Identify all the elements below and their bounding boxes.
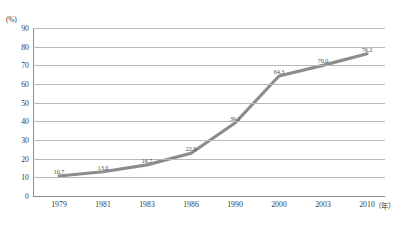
gridline (33, 47, 385, 48)
x-axis-tick-label: 1986 (183, 200, 199, 209)
line-chart: (%) 0102030405060708090 10.713.016.722.9… (0, 0, 404, 241)
y-axis-tick-label: 50 (3, 98, 29, 107)
x-axis-tick-label: 2003 (315, 200, 331, 209)
y-axis-tick-labels: 0102030405060708090 (0, 28, 29, 196)
y-axis-tick-label: 90 (3, 24, 29, 33)
gridline (33, 28, 385, 29)
data-point-label: 16.7 (142, 157, 152, 164)
y-axis-tick-label: 80 (3, 42, 29, 51)
y-axis-tick-label: 60 (3, 80, 29, 89)
y-axis-tick-label: 40 (3, 117, 29, 126)
data-point-label: 76.2 (362, 46, 372, 53)
gridline (33, 196, 385, 197)
gridline (33, 84, 385, 85)
plot-area: 10.713.016.722.939.164.370.076.2 (33, 28, 385, 196)
gridline (33, 103, 385, 104)
x-axis-tick-label: 1981 (95, 200, 111, 209)
x-axis-tick-labels: 19791981198319861990200020032010 (33, 200, 385, 218)
series-line (33, 28, 385, 196)
y-axis-tick-label: 70 (3, 61, 29, 70)
data-point-label: 13.0 (98, 164, 108, 171)
gridline (33, 140, 385, 141)
data-point-label: 70.0 (318, 57, 328, 64)
x-axis-unit-label: （年） (374, 200, 395, 211)
data-point-label: 10.7 (54, 168, 64, 175)
y-axis-tick-label: 10 (3, 173, 29, 182)
y-axis-tick-label: 30 (3, 136, 29, 145)
gridline (33, 159, 385, 160)
x-axis-tick-label: 1979 (51, 200, 67, 209)
y-axis-tick-label: 0 (3, 192, 29, 201)
y-axis-tick-label: 20 (3, 154, 29, 163)
data-point-label: 22.9 (186, 145, 196, 152)
x-axis-tick-label: 1983 (139, 200, 155, 209)
x-axis-tick-label: 2000 (271, 200, 287, 209)
gridline (33, 121, 385, 122)
data-point-label: 39.1 (230, 115, 240, 122)
data-point-label: 64.3 (274, 68, 284, 75)
x-axis-tick-label: 1990 (227, 200, 243, 209)
gridline (33, 65, 385, 66)
x-axis-tick-label: 2010 (359, 200, 375, 209)
gridline (33, 177, 385, 178)
